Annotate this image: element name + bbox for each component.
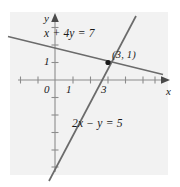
y-axis-arrowhead [51,13,59,22]
line-2x-minus-y-equals-5 [49,16,136,181]
origin-tick-label: 0 [44,84,50,95]
x-axis-label: x [166,86,171,97]
y-axis-label: y [44,13,49,24]
line-x-plus-4y-equals-7 [8,37,163,75]
equation-label-upper: x + 4y = 7 [44,28,95,40]
x-axis-arrowhead [161,76,170,84]
y-tick-label-1: 1 [44,56,50,67]
intersection-point-marker [105,60,110,65]
equation-label-lower: 2x − y = 5 [72,118,123,130]
linear-system-graph-figure: x + 4y = 7 2x − y = 5 (3, 1) y x 0 1 3 1 [0,0,180,187]
intersection-point-label: (3, 1) [112,50,136,61]
x-tick-label-1: 1 [66,84,72,95]
x-tick-label-3: 3 [101,84,107,95]
